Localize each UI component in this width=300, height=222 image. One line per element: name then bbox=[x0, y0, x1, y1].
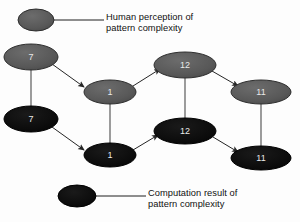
node-h7[interactable]: 7 bbox=[4, 44, 58, 70]
vertical-links bbox=[31, 57, 261, 158]
legend-human-line1: Human perception of bbox=[106, 12, 193, 22]
node-c1[interactable]: 1 bbox=[84, 143, 136, 167]
arrow-c1-to-c12 bbox=[133, 135, 158, 150]
node-c12[interactable]: 12 bbox=[154, 118, 216, 144]
black-ellipse-swatch bbox=[58, 185, 96, 207]
node-h12[interactable]: 12 bbox=[154, 52, 216, 78]
legend-computation-line2: pattern complexity bbox=[148, 199, 224, 209]
node-value: 12 bbox=[180, 126, 190, 136]
node-value: 1 bbox=[107, 87, 112, 97]
legend-human-label: Human perception ofpattern complexity bbox=[106, 12, 193, 35]
node-value: 7 bbox=[28, 52, 33, 62]
node-h1[interactable]: 1 bbox=[84, 80, 136, 104]
node-value: 11 bbox=[256, 153, 265, 163]
legend-computation-line1: Computation result of bbox=[148, 188, 237, 198]
legend-computation-label: Computation result ofpattern complexity bbox=[148, 188, 237, 211]
legend-human-line2: pattern complexity bbox=[106, 23, 182, 33]
node-c7[interactable]: 7 bbox=[4, 106, 58, 132]
node-value: 12 bbox=[180, 60, 190, 70]
arrow-c12-to-c11 bbox=[213, 137, 238, 152]
figure-canvas: 7 1 12 11 7 1 12 11 bbox=[0, 0, 300, 222]
arrow-c7-to-c1 bbox=[52, 127, 84, 150]
node-c11[interactable]: 11 bbox=[231, 146, 291, 170]
gray-ellipse-swatch bbox=[18, 9, 54, 31]
arrow-h7-to-h1 bbox=[52, 64, 84, 87]
node-value: 11 bbox=[256, 87, 265, 97]
legend-top bbox=[18, 9, 104, 31]
arrow-h1-to-h12 bbox=[133, 69, 160, 86]
node-h11[interactable]: 11 bbox=[231, 80, 291, 104]
legend-bottom bbox=[58, 185, 146, 207]
arrow-h12-to-h11 bbox=[212, 71, 238, 86]
node-value: 7 bbox=[28, 114, 33, 124]
node-value: 1 bbox=[107, 150, 112, 160]
